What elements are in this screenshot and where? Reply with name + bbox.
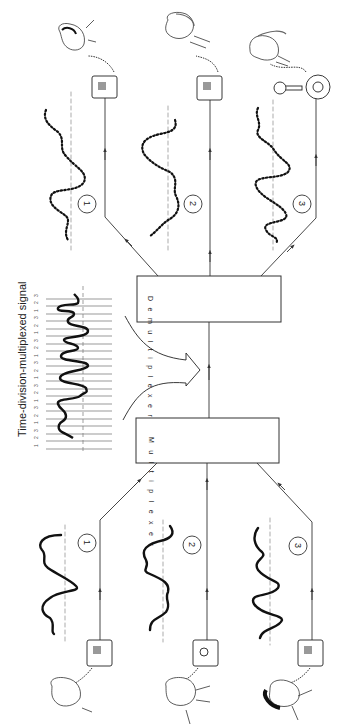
sender-people	[51, 677, 312, 724]
svg-text:3: 3	[33, 384, 39, 387]
channel-marker-2: 2	[183, 536, 201, 554]
svg-text:2: 2	[33, 391, 39, 394]
source-wave-1	[40, 535, 77, 634]
receiver-links	[105, 96, 316, 276]
channel-marker-1-top: 1	[78, 195, 96, 213]
channel-marker-3: 3	[289, 537, 307, 555]
reconstructed-wave-3	[256, 108, 290, 244]
svg-text:3: 3	[297, 201, 307, 206]
svg-text:2: 2	[188, 201, 198, 206]
listener-3	[250, 31, 290, 66]
listener-2	[166, 12, 210, 48]
sender-phones	[74, 640, 323, 684]
listener-1	[59, 20, 96, 50]
reconstructed-wave-1	[45, 110, 85, 240]
svg-text:2: 2	[33, 324, 39, 327]
svg-text:1: 1	[82, 540, 92, 545]
svg-text:3: 3	[33, 316, 39, 319]
tdm-curved-arrow	[123, 316, 200, 420]
svg-text:1: 1	[82, 201, 92, 206]
svg-text:1: 1	[33, 376, 39, 379]
svg-text:1: 1	[33, 444, 39, 447]
sender-links	[100, 463, 312, 640]
svg-text:2: 2	[33, 414, 39, 417]
svg-text:1: 1	[33, 354, 39, 357]
tdm-diagram: Time-division-multiplexed signal 1 2 3 1…	[0, 0, 341, 727]
reconstructed-wave-2	[142, 120, 178, 236]
source-waveforms	[40, 518, 282, 645]
svg-text:1: 1	[33, 309, 39, 312]
svg-text:3: 3	[33, 406, 39, 409]
svg-text:3: 3	[33, 294, 39, 297]
receiver-link-3	[261, 96, 316, 276]
svg-text:2: 2	[33, 436, 39, 439]
source-wave-3	[253, 528, 282, 638]
channel-marker-1: 1	[78, 534, 96, 552]
svg-text:1: 1	[33, 331, 39, 334]
receiver-phone-1	[88, 56, 117, 98]
tdm-signal-panel: 1 2 3 1 2 3 1 2 3 1 2 3 1 2 3 1 2 3 1 2 …	[33, 286, 112, 452]
sender-channel-markers: 1 2 3	[78, 534, 307, 555]
slot-grid	[46, 299, 112, 449]
receiver-people	[59, 12, 290, 66]
receiver-phones	[88, 56, 330, 100]
speaker-2	[166, 677, 210, 724]
multiplexer-box: Multiplexer	[136, 418, 279, 553]
svg-text:1: 1	[33, 421, 39, 424]
svg-text:2: 2	[33, 346, 39, 349]
tdm-title-text: Time-division-multiplexed signal	[16, 282, 28, 437]
svg-text:1: 1	[33, 399, 39, 402]
svg-text:3: 3	[33, 429, 39, 432]
svg-text:3: 3	[33, 361, 39, 364]
channel-marker-3-top: 3	[293, 195, 311, 213]
sender-phone-2	[180, 640, 218, 682]
channel-marker-2-top: 2	[184, 195, 202, 213]
multiplexer-label: Multiplexer	[147, 437, 155, 553]
reconstructed-waveforms	[45, 92, 290, 250]
tdm-title: Time-division-multiplexed signal	[16, 282, 28, 437]
speaker-1	[51, 677, 92, 712]
slot-numbers: 1 2 3 1 2 3 1 2 3 1 2 3 1 2 3 1 2 3 1 2 …	[33, 294, 39, 447]
sender-phone-1	[74, 640, 112, 684]
sender-phone-3	[286, 640, 323, 684]
svg-text:3: 3	[33, 339, 39, 342]
speaker-3	[265, 680, 312, 720]
demultiplexer-label: Demultiplexer	[146, 296, 154, 423]
svg-text:2: 2	[187, 542, 197, 547]
receiver-link-1	[105, 98, 158, 276]
svg-text:3: 3	[293, 543, 303, 548]
svg-text:2: 2	[33, 369, 39, 372]
receiver-phone-2	[196, 56, 222, 100]
receiver-phone-3	[270, 64, 330, 99]
svg-text:2: 2	[33, 301, 39, 304]
